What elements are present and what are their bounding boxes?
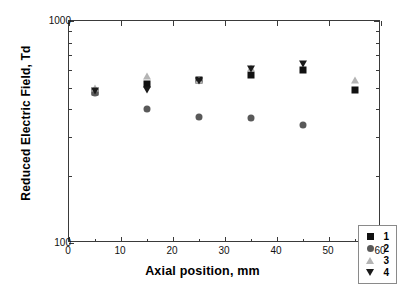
y-axis-minor-tick — [69, 109, 72, 110]
legend-item-label: 1 — [383, 231, 389, 242]
x-axis-tick-top — [225, 21, 226, 26]
x-axis-tick — [329, 237, 330, 242]
x-axis-tick — [121, 237, 122, 242]
y-axis-minor-tick — [69, 43, 72, 44]
y-axis-minor-tick — [69, 31, 72, 32]
data-point-series-4 — [195, 78, 203, 85]
legend-item-4[interactable]: 4 — [364, 267, 389, 278]
y-axis-minor-tick — [376, 176, 379, 177]
y-axis-minor-tick — [376, 137, 379, 138]
y-axis-minor-tick — [376, 70, 379, 71]
data-point-series-4 — [143, 87, 151, 94]
x-axis-tick-label: 20 — [166, 245, 177, 256]
plot-frame — [68, 20, 380, 242]
square-icon — [364, 231, 376, 242]
y-axis-minor-tick — [69, 176, 72, 177]
chart-figure: Reduced Electric Field, Td Axial positio… — [0, 0, 405, 292]
x-axis-tick-top — [173, 21, 174, 26]
x-axis-title: Axial position, mm — [0, 264, 405, 278]
data-point-series-2 — [248, 115, 255, 122]
x-axis-tick-top — [329, 21, 330, 26]
x-axis-tick-label: 10 — [114, 245, 125, 256]
x-axis-tick — [277, 237, 278, 242]
x-axis-minor-tick — [95, 239, 96, 242]
data-point-series-2 — [300, 122, 307, 129]
y-axis-minor-tick — [376, 31, 379, 32]
y-axis-minor-tick — [376, 88, 379, 89]
legend-item-label: 4 — [383, 267, 389, 278]
triangle-up-icon — [364, 255, 376, 266]
y-axis-minor-tick — [69, 88, 72, 89]
x-axis-tick-label: 30 — [218, 245, 229, 256]
x-axis-minor-tick — [355, 239, 356, 242]
x-axis-tick-top — [121, 21, 122, 26]
y-axis-tick — [374, 21, 379, 22]
data-point-series-4 — [299, 61, 307, 68]
x-axis-tick — [173, 237, 174, 242]
y-axis-minor-tick — [69, 70, 72, 71]
x-axis-minor-tick — [147, 239, 148, 242]
y-axis-minor-tick — [376, 55, 379, 56]
y-axis-tick-label: 100 — [54, 237, 71, 248]
y-axis-minor-tick — [69, 55, 72, 56]
y-axis-minor-tick — [376, 43, 379, 44]
x-axis-minor-tick — [251, 239, 252, 242]
x-axis-minor-tick — [199, 239, 200, 242]
y-axis-minor-tick — [376, 109, 379, 110]
data-point-series-1 — [352, 86, 359, 93]
y-axis-title: Reduced Electric Field, Td — [19, 23, 33, 223]
data-point-series-3 — [143, 73, 151, 80]
y-axis-tick-label: 1000 — [49, 15, 71, 26]
x-axis-tick-label: 60 — [374, 245, 385, 256]
x-axis-tick — [225, 237, 226, 242]
x-axis-tick-top — [381, 21, 382, 26]
legend-item-1[interactable]: 1 — [364, 231, 389, 242]
data-point-series-4 — [247, 66, 255, 73]
data-point-series-1 — [300, 67, 307, 74]
legend-item-3[interactable]: 3 — [364, 255, 389, 266]
data-point-series-3 — [351, 77, 359, 84]
x-axis-tick-label: 40 — [270, 245, 281, 256]
triangle-down-icon — [364, 267, 376, 278]
x-axis-tick-top — [277, 21, 278, 26]
data-point-series-2 — [144, 106, 151, 113]
plot-area — [69, 21, 379, 241]
data-point-series-2 — [196, 113, 203, 120]
legend-item-label: 3 — [383, 255, 389, 266]
data-point-series-4 — [91, 88, 99, 95]
x-axis-tick-label: 50 — [322, 245, 333, 256]
y-axis-minor-tick — [69, 137, 72, 138]
x-axis-minor-tick — [303, 239, 304, 242]
